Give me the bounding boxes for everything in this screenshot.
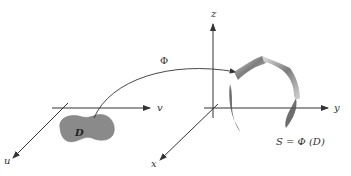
phi-arrow: [94, 69, 236, 118]
u-axis: [13, 103, 68, 158]
diagram-canvas: v u D Φ z y x S = Φ (D): [0, 0, 351, 176]
surface-s: [229, 56, 300, 132]
region-d: [60, 114, 115, 141]
u-axis-label: u: [4, 155, 10, 166]
x-axis-label: x: [151, 158, 157, 169]
z-axis-label: z: [210, 8, 217, 19]
region-label: D: [74, 127, 84, 138]
y-axis-label: y: [333, 102, 340, 113]
x-axis: [160, 104, 218, 160]
phi-label: Φ: [160, 55, 168, 66]
parametrization-diagram: v u D Φ z y x S = Φ (D): [0, 0, 351, 176]
v-axis-label: v: [157, 102, 163, 113]
surface-label: S = Φ (D): [276, 136, 325, 147]
